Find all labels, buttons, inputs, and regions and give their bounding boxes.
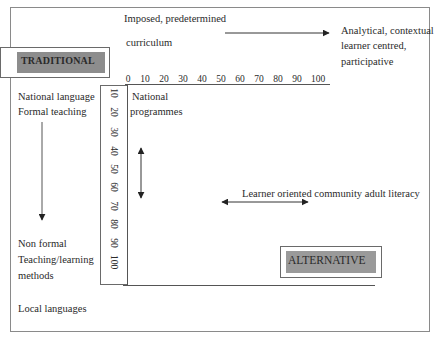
diagram-lines: [0, 0, 441, 344]
